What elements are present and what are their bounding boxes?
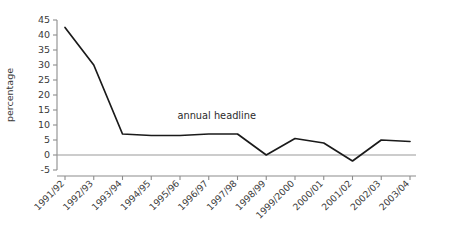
y-axis-tick-label: 25 (38, 74, 50, 85)
y-axis-tick-label: 5 (44, 134, 50, 145)
y-axis-tick-label: 0 (44, 149, 50, 160)
chart-container: -5051015202530354045 1991/921992/931993/… (0, 0, 456, 238)
y-axis-title: percentage (4, 68, 15, 122)
y-axis-tick-label: 15 (38, 104, 50, 115)
y-axis-tick-label: 30 (38, 59, 50, 70)
series-annotation-label: annual headline (177, 110, 256, 121)
y-axis-tick-label: 45 (38, 14, 50, 25)
line-chart: -5051015202530354045 1991/921992/931993/… (0, 0, 456, 238)
y-axis-tick-label: 10 (38, 119, 50, 130)
y-axis-tick-label: 20 (38, 89, 50, 100)
y-axis-tick-label: 40 (38, 29, 50, 40)
y-axis-tick-label: -5 (41, 164, 50, 175)
y-axis-tick-label: 35 (38, 44, 50, 55)
